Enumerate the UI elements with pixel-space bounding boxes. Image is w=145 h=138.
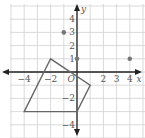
y-axis-label: y <box>80 4 87 14</box>
data-point <box>62 30 67 35</box>
data-point <box>75 57 80 62</box>
y-axis-arrow-down-icon <box>74 129 80 136</box>
y-tick-label: 3 <box>69 27 75 37</box>
x-tick-label: 2 <box>101 74 107 84</box>
y-axis-arrow-up-icon <box>74 4 80 11</box>
x-tick-label: 4 <box>127 74 133 84</box>
y-tick-label: 4 <box>69 14 75 24</box>
x-axis-arrow-left-icon <box>2 69 9 75</box>
x-tick-label: −4 <box>18 74 32 84</box>
origin-label: O <box>68 74 76 84</box>
data-point <box>128 57 133 62</box>
y-tick-label: 2 <box>69 41 75 51</box>
x-axis-label: x <box>136 74 141 84</box>
x-tick-label: −2 <box>44 74 57 84</box>
y-tick-label: 1 <box>69 54 75 64</box>
y-tick-label: −2 <box>62 93 75 103</box>
x-tick-label: 3 <box>114 74 120 84</box>
y-tick-label: −4 <box>62 120 76 130</box>
coordinate-plane: −4−22344321−2−4xyO <box>0 0 145 138</box>
